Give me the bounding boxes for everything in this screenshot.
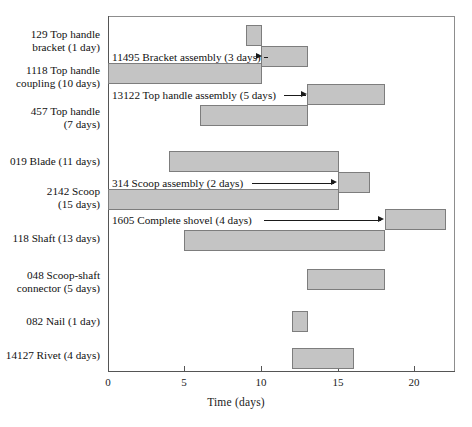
row-label-129-top-handle-bracket: 129 Top handle bracket (1 day) xyxy=(0,28,100,53)
annotation-label: 11495 Bracket assembly (3 days) xyxy=(112,50,261,64)
row-label-line1: 2142 Scoop xyxy=(0,185,100,198)
x-tick-label-10: 10 xyxy=(246,376,276,388)
bar-1118-top-handle-coupling xyxy=(108,63,262,84)
bar-082-nail xyxy=(292,311,308,332)
row-label-082-nail: 082 Nail (1 day) xyxy=(0,315,100,328)
annotation-leader-line xyxy=(252,183,334,184)
annotation-arrowhead-icon xyxy=(301,91,307,97)
bar-129-top-handle-bracket xyxy=(246,25,262,46)
x-tick-label-20: 20 xyxy=(399,376,429,388)
row-label-118-shaft: 118 Shaft (13 days) xyxy=(0,232,100,245)
annotation-leader-line xyxy=(264,220,381,221)
row-label-line1: 048 Scoop-shaft xyxy=(0,269,100,282)
bar-2142-scoop xyxy=(108,189,339,210)
row-label-line2: coupling (10 days) xyxy=(0,77,100,90)
bar-118-shaft xyxy=(184,230,385,251)
bar-1605-complete-shovel xyxy=(385,209,446,230)
row-label-line1: 1118 Top handle xyxy=(0,64,100,77)
annotation-arrowhead-icon xyxy=(256,53,262,59)
row-label-line1: 457 Top handle xyxy=(0,105,100,118)
x-tick-label-0: 0 xyxy=(93,376,123,388)
row-label-line1: 082 Nail (1 day) xyxy=(0,315,100,328)
x-tick-label-15: 15 xyxy=(323,376,353,388)
row-label-line2: bracket (1 day) xyxy=(0,41,100,54)
x-tick-label-5: 5 xyxy=(169,376,199,388)
gantt-chart: 0 5 10 15 20 Time (days) 129 Top handle … xyxy=(0,0,472,427)
row-label-019-blade: 019 Blade (11 days) xyxy=(0,155,100,168)
row-label-line1: 118 Shaft (13 days) xyxy=(0,232,100,245)
row-label-1118-top-handle-coupling: 1118 Top handle coupling (10 days) xyxy=(0,64,100,89)
row-label-048-scoop-shaft-connector: 048 Scoop-shaft connector (5 days) xyxy=(0,269,100,294)
bar-048-scoop-shaft-connector xyxy=(307,269,385,290)
row-label-line1: 129 Top handle xyxy=(0,28,100,41)
x-axis-title: Time (days) xyxy=(0,396,472,408)
bar-11495-bracket-assembly xyxy=(261,46,308,67)
bar-13122-top-handle-assembly xyxy=(307,84,385,105)
row-label-line1: 14127 Rivet (4 days) xyxy=(0,349,100,362)
bar-14127-rivet xyxy=(292,348,354,369)
annotation-label: 13122 Top handle assembly (5 days) xyxy=(112,88,276,102)
row-label-14127-rivet: 14127 Rivet (4 days) xyxy=(0,349,100,362)
bar-019-blade xyxy=(169,151,339,172)
annotation-leader-line xyxy=(264,57,268,58)
x-tick-20 xyxy=(414,366,415,372)
x-axis-line xyxy=(108,371,455,372)
annotation-arrowhead-icon xyxy=(378,216,384,222)
annotation-label: 1605 Complete shovel (4 days) xyxy=(112,213,252,227)
row-label-line2: connector (5 days) xyxy=(0,282,100,295)
x-tick-10 xyxy=(261,366,262,372)
row-label-457-top-handle: 457 Top handle (7 days) xyxy=(0,105,100,130)
bar-314-scoop-assembly xyxy=(338,172,370,193)
x-tick-0 xyxy=(108,366,109,372)
row-label-line2: (7 days) xyxy=(0,118,100,131)
row-label-2142-scoop: 2142 Scoop (15 days) xyxy=(0,185,100,210)
bar-457-top-handle xyxy=(200,105,308,126)
annotation-arrowhead-icon xyxy=(331,179,337,185)
annotation-label: 314 Scoop assembly (2 days) xyxy=(112,176,243,190)
x-tick-5 xyxy=(184,366,185,372)
row-label-line2: (15 days) xyxy=(0,198,100,211)
row-label-line1: 019 Blade (11 days) xyxy=(0,155,100,168)
